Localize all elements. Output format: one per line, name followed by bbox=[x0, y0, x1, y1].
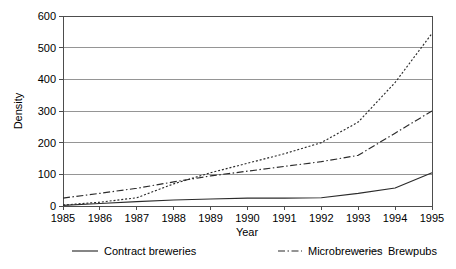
chart-canvas: 0100200300400500600 19851986198719881989… bbox=[0, 0, 456, 269]
y-axis-title: Density bbox=[12, 92, 24, 129]
y-tick-label-0: 0 bbox=[50, 200, 56, 212]
line-chart-figure: 0100200300400500600 19851986198719881989… bbox=[0, 0, 456, 269]
y-tick-label-300: 300 bbox=[38, 105, 56, 117]
x-tick-label-1989: 1989 bbox=[198, 212, 222, 224]
x-tick-label-1994: 1994 bbox=[383, 212, 407, 224]
y-tick-label-100: 100 bbox=[38, 168, 56, 180]
y-tick-label-200: 200 bbox=[38, 137, 56, 149]
legend-label-microbreweries: Microbreweries bbox=[308, 245, 383, 257]
x-tick-label-1995: 1995 bbox=[420, 212, 444, 224]
x-tick-label-1993: 1993 bbox=[346, 212, 370, 224]
x-tick-label-1987: 1987 bbox=[125, 212, 149, 224]
y-tick-label-600: 600 bbox=[38, 10, 56, 22]
y-tick-label-500: 500 bbox=[38, 42, 56, 54]
legend-label-brewpubs: Brewpubs bbox=[388, 245, 437, 257]
x-axis-tick-labels: 1985198619871988198919901991199219931994… bbox=[51, 212, 444, 224]
x-tick-label-1990: 1990 bbox=[235, 212, 259, 224]
legend-label-contract-breweries: Contract breweries bbox=[104, 245, 197, 257]
x-axis-title: Year bbox=[236, 226, 259, 238]
chart-background bbox=[0, 0, 456, 269]
y-tick-label-400: 400 bbox=[38, 73, 56, 85]
x-tick-label-1985: 1985 bbox=[51, 212, 75, 224]
x-tick-label-1991: 1991 bbox=[272, 212, 296, 224]
x-tick-label-1986: 1986 bbox=[88, 212, 112, 224]
x-tick-label-1988: 1988 bbox=[161, 212, 185, 224]
x-tick-label-1992: 1992 bbox=[309, 212, 333, 224]
